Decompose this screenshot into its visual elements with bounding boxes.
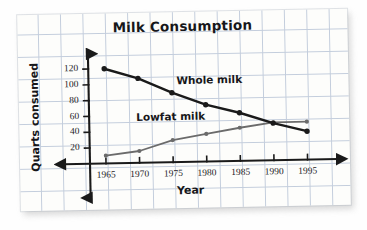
y-axis-title: Quarts consumed — [27, 57, 42, 177]
x-axis-title: Year — [130, 183, 250, 198]
data-point-marker — [271, 120, 277, 126]
chart-scene: Milk Consumption Quarts consumed Year — [0, 0, 367, 230]
data-point-marker — [137, 149, 141, 153]
chart-plot-area: Milk Consumption Quarts consumed Year — [17, 9, 351, 211]
data-point-marker — [305, 120, 309, 124]
x-tick-label: 1995 — [288, 165, 328, 176]
y-tick-label: 120 — [48, 63, 78, 74]
y-tick-label: 20 — [50, 142, 80, 153]
data-point-marker — [304, 128, 310, 134]
y-tick-label: 100 — [48, 79, 78, 90]
series-label-lowfat-milk: Lowfat milk — [136, 110, 205, 123]
data-point-marker — [104, 153, 108, 157]
data-point-marker — [101, 66, 107, 72]
y-tick-label: 60 — [49, 111, 79, 122]
series-line — [105, 122, 307, 156]
data-point-marker — [204, 132, 208, 136]
data-point-marker — [237, 110, 243, 116]
y-tick-label: 80 — [49, 95, 79, 106]
data-point-marker — [238, 126, 242, 130]
data-point-marker — [171, 138, 175, 142]
series-label-whole-milk: Whole milk — [176, 73, 242, 86]
x-axis-line — [64, 159, 338, 164]
y-tick-label: 40 — [49, 126, 79, 137]
